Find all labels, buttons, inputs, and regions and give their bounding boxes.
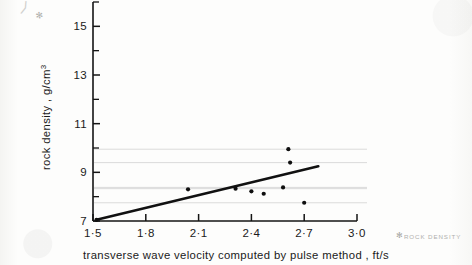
- data-point: [281, 185, 285, 189]
- x-tick-label: 2·1: [190, 227, 208, 239]
- asterisk-icon-top: ✻: [35, 9, 44, 20]
- data-point: [288, 161, 292, 165]
- y-tick-label: 15: [73, 20, 87, 32]
- y-axis-title: rock density , g/cm3: [39, 64, 52, 170]
- x-axis-title: transverse wave velocity computed by pul…: [83, 249, 389, 261]
- guide-lines: [94, 149, 367, 203]
- y-axis-tick-labels: 79111315: [73, 20, 87, 227]
- y-tick-label: 11: [74, 118, 87, 130]
- chart-svg: 79111315 1·51·82·12·42·73·0 transverse w…: [0, 0, 472, 265]
- y-axis-title-text: rock density , g/cm3: [39, 64, 52, 170]
- y-tick-label: 13: [73, 69, 87, 81]
- data-point: [233, 187, 237, 191]
- data-point: [94, 218, 98, 222]
- trend-line: [97, 166, 319, 220]
- data-point: [302, 201, 306, 205]
- data-point: [286, 147, 290, 151]
- x-axis-ticks: [93, 214, 357, 221]
- x-tick-label: 3·0: [348, 227, 366, 239]
- data-point: [186, 187, 190, 191]
- asterisk-icon-corner: ✻: [396, 231, 403, 240]
- x-tick-label: 1·8: [137, 227, 155, 239]
- data-point: [249, 189, 253, 193]
- x-tick-label: 2·7: [295, 227, 313, 239]
- data-points: [94, 147, 306, 222]
- x-tick-label: 1·5: [84, 227, 102, 239]
- y-tick-label: 9: [80, 166, 87, 178]
- y-tick-label: 7: [80, 215, 87, 227]
- x-tick-label: 2·4: [242, 227, 260, 239]
- data-point: [262, 192, 266, 196]
- y-axis-ticks: [93, 2, 100, 221]
- figure-container: 79111315 1·51·82·12·42·73·0 transverse w…: [0, 0, 472, 265]
- handwritten-note: ROCK DENSITY: [404, 233, 461, 240]
- x-axis-tick-labels: 1·51·82·12·42·73·0: [84, 227, 366, 239]
